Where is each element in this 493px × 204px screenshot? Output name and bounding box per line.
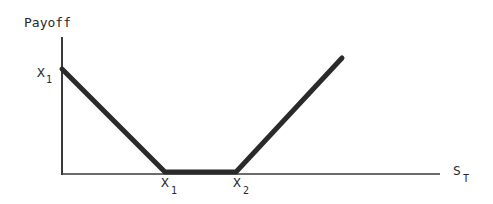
y-tick-x1-label: X [37, 65, 45, 80]
x-axis-label-subscript: T [463, 173, 469, 184]
x-tick-x1-label: X [161, 175, 169, 190]
x-tick-x2-subscript: 2 [243, 185, 249, 196]
x-tick-x2-label: X [233, 175, 241, 190]
payoff-line [62, 58, 342, 172]
x-tick-x1-subscript: 1 [171, 185, 177, 196]
y-axis-label: Payoff [24, 15, 71, 30]
payoff-diagram: Payoff X 1 X 1 X 2 S T [0, 0, 493, 204]
y-tick-x1-subscript: 1 [46, 74, 52, 85]
x-axis-label: S [453, 163, 461, 178]
